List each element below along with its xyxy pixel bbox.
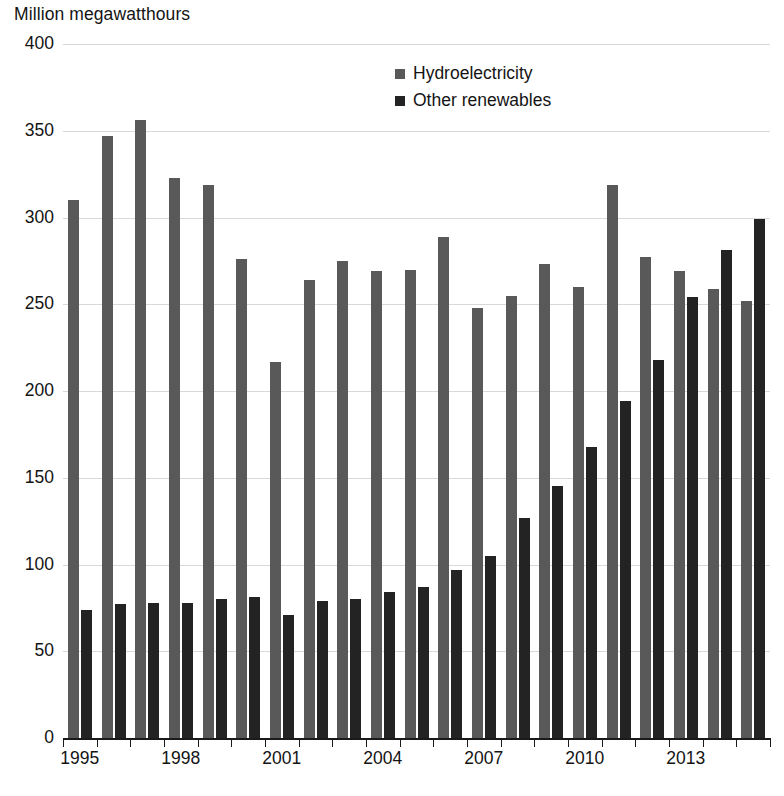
x-axis-line [63, 738, 771, 740]
bar [304, 280, 315, 738]
bar [283, 615, 294, 738]
bar [620, 401, 631, 738]
y-axis-tick-label: 300 [4, 209, 54, 227]
y-axis-tick-label: 250 [4, 295, 54, 313]
bar [182, 603, 193, 738]
x-axis-tick [635, 739, 636, 747]
y-axis-tick-label: 100 [4, 556, 54, 574]
bar [653, 360, 664, 738]
bar [270, 362, 281, 738]
bar [485, 556, 496, 738]
x-axis-tick-label: 1998 [161, 748, 200, 769]
bar [418, 587, 429, 738]
bar [708, 289, 719, 738]
x-axis-tick [703, 739, 704, 747]
bar [81, 610, 92, 738]
chart-title: Million megawatthours [14, 4, 190, 25]
bar [586, 447, 597, 738]
x-axis-tick-label: 2001 [262, 748, 301, 769]
bar [687, 297, 698, 738]
bar [68, 200, 79, 738]
y-axis-tick-label: 400 [4, 35, 54, 53]
bar [607, 185, 618, 738]
bar [573, 287, 584, 738]
bar [337, 261, 348, 738]
bar [472, 308, 483, 738]
y-axis-tick-label: 200 [4, 382, 54, 400]
x-axis-tick [433, 739, 434, 747]
bar [552, 486, 563, 738]
y-axis-tick-label: 0 [4, 729, 54, 747]
x-axis-tick [400, 739, 401, 747]
bar [741, 301, 752, 738]
bar [371, 271, 382, 738]
bar [721, 250, 732, 738]
y-axis-tick-label: 350 [4, 122, 54, 140]
legend-item-hydroelectricity[interactable]: Hydroelectricity [395, 60, 551, 87]
bar [236, 259, 247, 738]
bar [115, 604, 126, 738]
x-axis-tick [770, 739, 771, 747]
bar [203, 185, 214, 738]
x-axis-tick-label: 2007 [464, 748, 503, 769]
bar [169, 178, 180, 738]
plot-bars [63, 44, 770, 738]
x-axis-tick-label: 2013 [666, 748, 705, 769]
x-axis-tick [299, 739, 300, 747]
x-axis-tick [265, 739, 266, 747]
legend-swatch-icon-other-renewables [395, 96, 405, 106]
bar [405, 270, 416, 738]
x-axis-tick-label: 2010 [565, 748, 604, 769]
bar [438, 237, 449, 738]
bar [249, 597, 260, 738]
y-axis-tick-label: 150 [4, 469, 54, 487]
x-axis-tick-label: 1995 [60, 748, 99, 769]
bar [451, 570, 462, 738]
legend: Hydroelectricity Other renewables [395, 60, 551, 114]
bar [135, 120, 146, 738]
bar [384, 592, 395, 738]
bar [754, 219, 765, 738]
x-axis-tick [534, 739, 535, 747]
bar [539, 264, 550, 738]
x-axis-tick [164, 739, 165, 747]
bar [216, 599, 227, 738]
x-axis-tick [602, 739, 603, 747]
legend-swatch-icon-hydroelectricity [395, 69, 405, 79]
bar [674, 271, 685, 738]
x-axis-tick [669, 739, 670, 747]
x-axis-tick [501, 739, 502, 747]
y-axis-tick-label: 50 [4, 642, 54, 660]
x-axis-tick-label: 2004 [363, 748, 402, 769]
bar [148, 603, 159, 738]
bar [350, 599, 361, 738]
bar [640, 257, 651, 738]
legend-item-other-renewables[interactable]: Other renewables [395, 87, 551, 114]
legend-label-other-renewables: Other renewables [413, 90, 551, 111]
bar [506, 296, 517, 738]
x-axis-tick [366, 739, 367, 747]
x-axis-tick [736, 739, 737, 747]
legend-label-hydroelectricity: Hydroelectricity [413, 63, 533, 84]
bar-chart: Million megawatthours 050100150200250300… [0, 0, 784, 796]
x-axis-tick [568, 739, 569, 747]
x-axis-tick [198, 739, 199, 747]
x-axis-tick [332, 739, 333, 747]
x-axis-tick [231, 739, 232, 747]
bar [317, 601, 328, 738]
x-axis-tick [63, 739, 64, 747]
x-axis-tick [467, 739, 468, 747]
bar [519, 518, 530, 738]
x-axis-tick [130, 739, 131, 747]
bar [102, 136, 113, 738]
x-axis-tick [97, 739, 98, 747]
